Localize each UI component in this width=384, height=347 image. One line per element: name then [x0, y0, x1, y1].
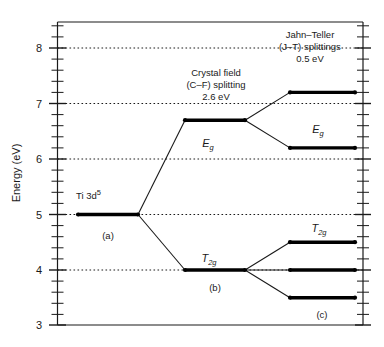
node-b-t2g-left — [183, 268, 187, 272]
node-a-left — [76, 212, 80, 216]
node-c-t2g-middle-left — [288, 268, 292, 272]
node-c-eg-upper-right — [353, 90, 357, 94]
diagram-canvas: 8 7 6 5 4 3 Energy (eV) — [0, 0, 384, 347]
y-tick-label-6: 6 — [36, 153, 42, 165]
y-tick-label-3: 3 — [36, 319, 42, 331]
node-c-eg-lower-right — [353, 146, 357, 150]
node-c-t2g-middle-right — [353, 268, 357, 272]
ti-configuration-base: Ti 3d — [76, 190, 97, 201]
y-axis-title: Energy (eV) — [10, 144, 22, 203]
jahn-teller-line-1: Jahn–Teller — [286, 29, 335, 40]
crystal-field-line-3: 2.6 eV — [202, 91, 230, 102]
node-c-t2g-upper-left — [288, 240, 292, 244]
panel-label-a: (a) — [102, 230, 114, 241]
y-tick-label-8: 8 — [36, 42, 42, 54]
node-c-t2g-lower-right — [353, 296, 357, 300]
panel-label-b: (b) — [209, 282, 221, 293]
node-c-t2g-lower-left — [288, 296, 292, 300]
node-c-eg-lower-left — [288, 146, 292, 150]
energy-level-diagram: 8 7 6 5 4 3 Energy (eV) — [0, 0, 384, 347]
jahn-teller-line-2: (J–T) splittings — [279, 41, 341, 52]
panel-label-c: (c) — [316, 309, 327, 320]
y-tick-label-7: 7 — [36, 98, 42, 110]
crystal-field-line-1: Crystal field — [191, 67, 241, 78]
y-tick-label-5: 5 — [36, 209, 42, 221]
ti-configuration-superscript: 5 — [97, 188, 101, 197]
state-label-t2g-right-sub: 2g — [317, 228, 327, 237]
node-c-eg-upper-left — [288, 90, 292, 94]
jahn-teller-line-3: 0.5 eV — [296, 53, 324, 64]
y-tick-label-4: 4 — [36, 264, 42, 276]
node-b-t2g-right — [243, 268, 247, 272]
crystal-field-line-2: (C–F) splitting — [186, 79, 245, 90]
node-b-eg-right — [243, 118, 247, 122]
state-label-t2g-center-sub: 2g — [207, 258, 217, 267]
node-c-t2g-upper-right — [353, 240, 357, 244]
node-a-right — [136, 212, 140, 216]
node-b-eg-left — [183, 118, 187, 122]
